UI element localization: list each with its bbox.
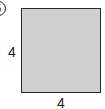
side-length-label-bottom: 4 (57, 96, 65, 109)
side-length-label-left: 4 (8, 45, 16, 59)
figure-number-badge: 5 (0, 1, 6, 16)
square-shape (21, 8, 101, 93)
